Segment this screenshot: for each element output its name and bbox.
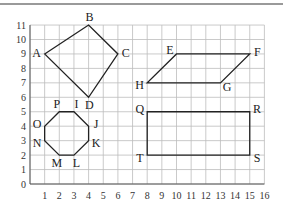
vertex-label-I: I xyxy=(74,97,78,111)
vertex-label-O: O xyxy=(33,117,42,131)
vertex-label-R: R xyxy=(253,102,261,116)
y-tick-label: 6 xyxy=(21,92,26,103)
vertex-label-F: F xyxy=(254,45,261,59)
y-tick-label: 7 xyxy=(21,77,26,88)
x-tick-label: 1 xyxy=(42,190,47,201)
y-tick-label: 10 xyxy=(16,34,26,45)
vertex-label-H: H xyxy=(135,78,144,92)
coordinate-grid-diagram: 1234567891011121314151601234567891011 AB… xyxy=(0,0,283,209)
grid-lines xyxy=(30,25,264,184)
vertex-label-E: E xyxy=(166,43,173,57)
vertex-label-A: A xyxy=(32,46,41,60)
vertex-label-L: L xyxy=(73,156,80,170)
vertex-label-D: D xyxy=(85,98,94,112)
vertex-label-S: S xyxy=(254,151,261,165)
x-tick-label: 4 xyxy=(86,190,91,201)
y-tick-label: 11 xyxy=(16,20,26,31)
x-tick-label: 6 xyxy=(115,190,120,201)
x-tick-label: 9 xyxy=(159,190,164,201)
vertex-label-B: B xyxy=(85,10,93,24)
kite-shape xyxy=(45,25,118,97)
y-tick-label: 9 xyxy=(21,48,26,59)
x-tick-label: 8 xyxy=(145,190,150,201)
y-tick-label: 5 xyxy=(21,106,26,117)
y-tick-label: 8 xyxy=(21,63,26,74)
x-tick-label: 11 xyxy=(186,190,196,201)
x-tick-label: 15 xyxy=(245,190,255,201)
x-tick-label: 2 xyxy=(57,190,62,201)
y-tick-label: 2 xyxy=(21,150,26,161)
x-tick-label: 16 xyxy=(259,190,269,201)
x-tick-label: 5 xyxy=(101,190,106,201)
y-tick-label: 3 xyxy=(21,135,26,146)
y-tick-label: 4 xyxy=(21,121,26,132)
vertex-label-N: N xyxy=(33,136,42,150)
rectangle-shape xyxy=(147,112,250,155)
x-tick-label: 14 xyxy=(230,190,240,201)
vertex-label-T: T xyxy=(136,151,144,165)
vertex-label-J: J xyxy=(94,117,99,131)
y-tick-label: 1 xyxy=(21,164,26,175)
x-tick-label: 13 xyxy=(215,190,225,201)
x-tick-label: 10 xyxy=(172,190,182,201)
vertex-label-K: K xyxy=(92,136,101,150)
x-tick-label: 3 xyxy=(71,190,76,201)
vertex-label-P: P xyxy=(53,97,60,111)
vertex-label-Q: Q xyxy=(136,102,145,116)
vertex-label-M: M xyxy=(51,156,62,170)
x-tick-label: 7 xyxy=(130,190,135,201)
vertex-label-G: G xyxy=(223,80,232,94)
y-tick-label: 0 xyxy=(21,179,26,190)
octagon-shape xyxy=(45,112,89,155)
vertex-label-C: C xyxy=(122,46,130,60)
x-tick-label: 12 xyxy=(201,190,211,201)
